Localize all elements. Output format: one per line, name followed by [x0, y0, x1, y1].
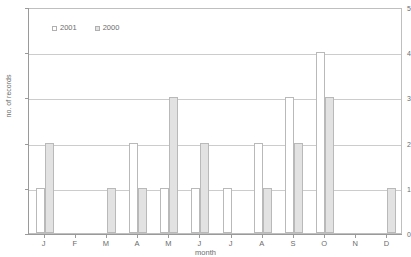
bar-2001-july	[223, 188, 232, 233]
y-tick-label-4: 4	[387, 50, 411, 57]
x-tick-mark-3	[137, 235, 138, 238]
chart-title-partial	[0, 0, 411, 5]
y-tick-mark-5	[25, 8, 28, 9]
x-tick-mark-6	[231, 235, 232, 238]
bar-2000-march	[107, 188, 116, 233]
plot-inner	[29, 9, 401, 233]
bar-2001-september	[285, 97, 294, 233]
x-tick-label-march: M	[96, 239, 116, 248]
legend-entry-2000: 2000	[95, 24, 120, 32]
y-tick-label-3: 3	[387, 95, 411, 102]
y-axis-title: no. of records	[5, 60, 13, 132]
y-tick-mark-0	[25, 234, 28, 235]
gridline-y-1	[29, 190, 401, 191]
bar-2001-october	[316, 52, 325, 233]
gray-square-swatch-icon	[95, 26, 100, 31]
bar-chart: no. of records month 2001 2000 012345JFM…	[0, 0, 411, 257]
x-axis-title: month	[0, 249, 411, 257]
x-tick-mark-5	[199, 235, 200, 238]
x-tick-mark-2	[106, 235, 107, 238]
x-tick-mark-8	[293, 235, 294, 238]
legend-label-2000: 2000	[103, 24, 120, 32]
legend-label-2001: 2001	[60, 24, 77, 32]
bar-2000-june	[200, 143, 209, 233]
bar-2001-august	[254, 143, 263, 233]
x-axis-line	[28, 234, 402, 235]
y-tick-mark-4	[25, 53, 28, 54]
x-tick-label-october: O	[314, 239, 334, 248]
bar-2000-april	[138, 188, 147, 233]
x-tick-label-november: N	[345, 239, 365, 248]
chart-legend: 2001 2000	[52, 24, 119, 32]
legend-entry-2001: 2001	[52, 24, 77, 32]
x-tick-label-april: A	[127, 239, 147, 248]
x-tick-label-december: D	[376, 239, 396, 248]
x-tick-label-september: S	[283, 239, 303, 248]
y-tick-mark-2	[25, 144, 28, 145]
gridline-y-3	[29, 99, 401, 100]
x-tick-mark-4	[168, 235, 169, 238]
x-tick-label-january: J	[34, 239, 54, 248]
x-tick-mark-9	[324, 235, 325, 238]
gridline-y-2	[29, 145, 401, 146]
plot-area	[28, 8, 402, 234]
y-tick-label-0: 0	[387, 231, 411, 238]
x-tick-label-august: A	[252, 239, 272, 248]
x-tick-mark-10	[355, 235, 356, 238]
y-tick-label-2: 2	[387, 141, 411, 148]
x-tick-mark-0	[44, 235, 45, 238]
y-tick-mark-3	[25, 98, 28, 99]
x-tick-mark-7	[262, 235, 263, 238]
bar-2001-june	[191, 188, 200, 233]
bar-2000-may	[169, 97, 178, 233]
x-tick-label-june: J	[189, 239, 209, 248]
bar-2000-october	[325, 97, 334, 233]
gridline-y-4	[29, 54, 401, 55]
bar-2000-december	[387, 188, 396, 233]
y-tick-label-5: 5	[387, 5, 411, 12]
x-tick-mark-11	[386, 235, 387, 238]
bar-2000-september	[294, 143, 303, 233]
x-tick-label-july: J	[221, 239, 241, 248]
y-axis-line	[28, 8, 29, 234]
y-tick-mark-1	[25, 189, 28, 190]
bar-2001-april	[129, 143, 138, 233]
x-tick-mark-1	[75, 235, 76, 238]
white-square-swatch-icon	[52, 26, 57, 31]
bar-2000-january	[45, 143, 54, 233]
x-tick-label-may: M	[158, 239, 178, 248]
x-tick-label-february: F	[65, 239, 85, 248]
bar-2001-january	[36, 188, 45, 233]
y-tick-label-1: 1	[387, 186, 411, 193]
bar-2001-may	[160, 188, 169, 233]
bar-2000-august	[263, 188, 272, 233]
